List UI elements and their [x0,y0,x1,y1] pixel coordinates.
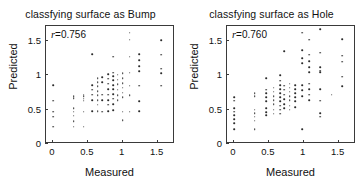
data-point [112,93,114,95]
data-point [122,119,124,121]
y-axis-label: Predicted [188,32,201,102]
data-point [97,94,99,96]
data-point [279,75,281,77]
scatter-figure: classfying surface as Bump r=0.756 00.51… [0,0,362,188]
x-tick-label: 0 [49,146,54,157]
data-point [122,87,124,89]
data-point [102,77,104,79]
data-point [83,126,85,128]
data-point [107,88,109,90]
data-point [233,100,235,102]
x-tick [87,140,88,143]
data-point [112,75,114,77]
data-point [341,86,343,88]
x-tick [157,140,158,143]
data-point [273,95,275,97]
data-point [129,56,131,58]
x-tick-label: 1.5 [331,146,344,157]
data-point [102,111,104,113]
data-point [289,95,291,97]
data-point [302,49,304,51]
data-point [117,79,119,81]
y-axis-label: Predicted [7,32,20,102]
y-tick [45,74,48,75]
data-point [91,53,93,55]
data-point [107,83,109,85]
data-point [52,84,54,86]
data-point [83,100,85,102]
data-point [265,101,267,103]
data-point [308,66,310,68]
y-tick [45,109,48,110]
data-point [273,87,275,89]
data-point [289,109,291,111]
y-tick [226,40,229,41]
plot-area [226,25,355,143]
data-point [91,99,93,101]
data-point [107,73,109,75]
data-point [341,61,343,63]
data-point [295,88,297,90]
x-tick-label: 0 [230,146,235,157]
data-point [320,29,322,31]
data-point [73,97,75,99]
data-point [122,73,124,75]
y-tick [45,143,48,144]
correlation-annotation: r=0.760 [232,29,267,41]
data-point [254,109,256,111]
data-point [122,77,124,79]
panel-bump: classfying surface as Bump r=0.756 00.51… [0,0,181,188]
data-point [273,103,275,105]
data-point [279,97,281,99]
data-point [52,100,54,102]
data-point [83,111,85,113]
data-point [91,94,93,96]
data-point [97,90,99,92]
x-tick [268,140,269,143]
data-point [73,121,75,123]
data-point [289,91,291,93]
data-point [73,126,75,128]
x-tick-label: 1 [300,146,305,157]
panel-hole: classfying surface as Hole r=0.760 00.51… [181,0,362,188]
data-point [139,60,141,62]
data-point [279,80,281,82]
data-point [97,104,99,106]
x-tick-label: 1 [119,146,124,157]
data-point [254,120,256,122]
data-point [320,66,322,68]
y-tick [226,109,229,110]
y-tick-label: 0 [0,138,41,149]
data-point [302,90,304,92]
data-point [320,71,322,73]
data-point [73,108,75,110]
data-point [265,112,267,114]
data-point [283,94,285,96]
y-tick-label: 0 [181,138,222,149]
data-point [283,103,285,105]
data-point [73,115,75,117]
data-point [129,111,131,113]
x-axis-label: Measured [45,166,174,179]
data-point [122,82,124,84]
x-tick [338,140,339,143]
data-point [107,104,109,106]
data-point [308,39,310,41]
data-point [112,110,114,112]
data-point [295,106,297,108]
data-point [320,116,322,118]
data-point [122,111,124,113]
data-point [308,54,310,56]
data-point [341,76,343,78]
data-point [302,32,304,34]
data-point [289,105,291,107]
data-point [295,84,297,86]
data-point [283,99,285,101]
data-point [302,84,304,86]
r-value: =0.760 [236,29,267,40]
data-point [117,74,119,76]
data-point [279,84,281,86]
data-point [308,83,310,85]
data-point [97,110,99,112]
data-point [112,103,114,105]
